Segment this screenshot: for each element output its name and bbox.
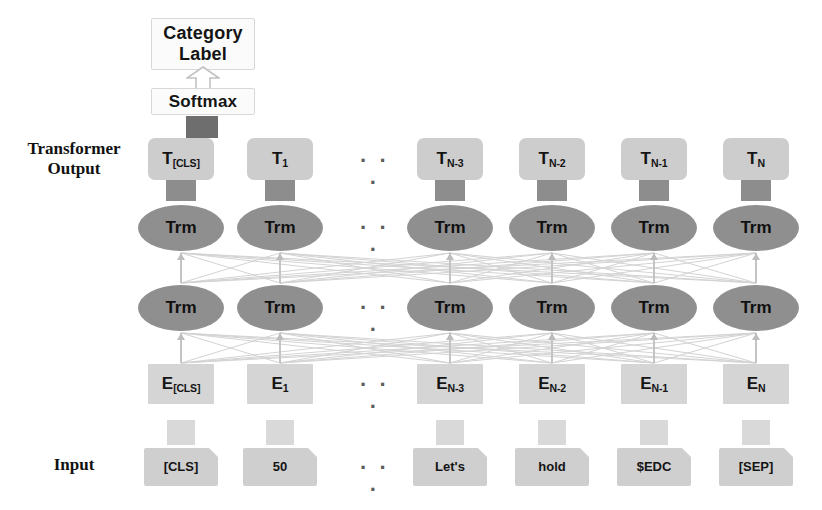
input-token-box-tok1: 50 — [243, 448, 317, 486]
output-box-tok1: T1 — [247, 138, 313, 180]
transformer-block-label: Trm — [434, 218, 465, 238]
attention-link-arrowhead — [177, 253, 185, 260]
arrow-input-to-embedding-n2 — [538, 420, 566, 445]
attention-link — [450, 253, 756, 283]
attention-link — [450, 253, 654, 283]
attention-link — [450, 333, 552, 363]
attention-link — [552, 253, 756, 283]
output-box-label-tok1: T1 — [272, 149, 288, 169]
transformer-block-lower-n: Trm — [713, 285, 799, 331]
arrow-trm-upper-to-output-n2 — [537, 180, 567, 201]
attention-link — [552, 333, 654, 363]
arrow-trm-upper-to-output-cls — [166, 180, 196, 201]
attention-link — [552, 253, 756, 283]
transformer-block-label: Trm — [434, 298, 465, 318]
attention-link-arrowhead — [752, 333, 760, 340]
transformer-block-label: Trm — [638, 218, 669, 238]
ellipsis-output-row: · · · — [352, 150, 398, 194]
attention-link-arrowhead — [752, 253, 760, 260]
category-label-box: Category Label — [151, 18, 255, 70]
attention-link — [450, 333, 654, 363]
transformer-block-upper-n: Trm — [713, 205, 799, 251]
attention-link-arrowhead — [650, 253, 658, 260]
attention-link — [181, 333, 756, 363]
output-box-label-cls: T[CLS] — [162, 149, 199, 169]
input-token-box-cls: [CLS] — [144, 448, 218, 486]
attention-link-arrowhead — [650, 333, 658, 340]
attention-link — [552, 253, 654, 283]
attention-link — [181, 333, 280, 363]
attention-link — [280, 333, 552, 363]
label-transformer-output-line1: Transformer — [27, 139, 120, 158]
attention-link — [181, 253, 756, 283]
label-input: Input — [4, 455, 144, 475]
attention-link — [280, 253, 552, 283]
transformer-block-upper-cls: Trm — [138, 205, 224, 251]
attention-link — [552, 253, 654, 283]
input-token-label-cls: [CLS] — [164, 460, 199, 475]
attention-link-arrowhead — [446, 253, 454, 260]
attention-link — [181, 253, 450, 283]
category-label-line1: Category — [163, 23, 243, 43]
embedding-box-label-tok1: E1 — [271, 374, 288, 394]
arrow-input-to-embedding-n1 — [640, 420, 668, 445]
arrow-tcls-to-softmax — [186, 116, 218, 138]
input-token-label-tok1: 50 — [273, 460, 287, 475]
output-box-label-n: TN — [747, 149, 765, 169]
output-box-n1: TN-1 — [621, 138, 687, 180]
input-token-label-n3: Let's — [435, 460, 465, 475]
transformer-block-label: Trm — [264, 218, 295, 238]
transformer-block-lower-n3: Trm — [407, 285, 493, 331]
input-token-box-n1: $EDC — [617, 448, 691, 486]
embedding-box-n3: EN-3 — [417, 364, 483, 404]
attention-link — [450, 253, 552, 283]
arrow-trm-upper-to-output-n3 — [435, 180, 465, 201]
transformer-block-upper-n2: Trm — [509, 205, 595, 251]
label-transformer-output: Transformer Output — [4, 139, 144, 179]
attention-link — [280, 253, 654, 283]
attention-link — [181, 333, 280, 363]
attention-link — [181, 253, 450, 283]
arrow-input-to-embedding-n — [742, 420, 770, 445]
embedding-box-n: EN — [723, 364, 789, 404]
embedding-box-tok1: E1 — [247, 364, 313, 404]
attention-link — [280, 333, 654, 363]
transformer-block-label: Trm — [165, 218, 196, 238]
ellipsis-trm-row-upper: · · · — [352, 217, 398, 261]
attention-link — [450, 333, 654, 363]
attention-link — [181, 253, 280, 283]
attention-link-arrowhead — [446, 333, 454, 340]
attention-link — [181, 333, 654, 363]
label-transformer-output-line2: Output — [48, 159, 101, 178]
output-box-n2: TN-2 — [519, 138, 585, 180]
input-token-box-n2: hold — [515, 448, 589, 486]
attention-connection-mesh — [0, 0, 822, 510]
attention-link — [280, 333, 654, 363]
bert-architecture-diagram: Category Label Softmax Transformer Outpu… — [0, 0, 822, 510]
attention-link — [280, 253, 552, 283]
attention-link — [552, 333, 654, 363]
transformer-block-upper-n3: Trm — [407, 205, 493, 251]
attention-link — [280, 253, 654, 283]
transformer-block-label: Trm — [165, 298, 196, 318]
attention-link-arrowhead — [177, 333, 185, 340]
output-box-label-n2: TN-2 — [539, 149, 566, 169]
transformer-block-label: Trm — [264, 298, 295, 318]
attention-link — [654, 333, 756, 363]
ellipsis-input-row: · · · — [352, 457, 398, 501]
attention-link — [450, 253, 756, 283]
transformer-block-upper-n1: Trm — [611, 205, 697, 251]
attention-link-arrowhead — [276, 333, 284, 340]
embedding-box-label-cls: E[CLS] — [162, 374, 200, 394]
attention-link — [552, 333, 756, 363]
attention-link-arrowhead — [548, 253, 556, 260]
output-box-label-n1: TN-1 — [641, 149, 668, 169]
transformer-block-lower-tok1: Trm — [237, 285, 323, 331]
ellipsis-trm-row-lower: · · · — [352, 297, 398, 341]
transformer-block-label: Trm — [740, 298, 771, 318]
attention-link — [181, 333, 756, 363]
arrow-trm-upper-to-output-n — [741, 180, 771, 201]
transformer-block-label: Trm — [740, 218, 771, 238]
arrow-trm-upper-to-output-n1 — [639, 180, 669, 201]
embedding-box-n2: EN-2 — [519, 364, 585, 404]
